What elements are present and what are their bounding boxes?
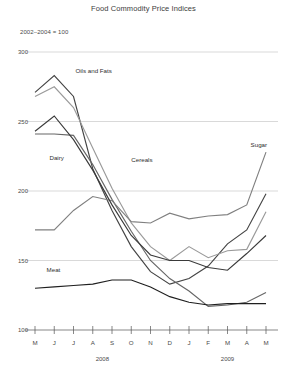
series-line-oils-and-fats <box>35 76 266 285</box>
x-axis-tick-label: M <box>263 339 268 346</box>
series-line-cereals <box>35 87 266 261</box>
x-axis-tick-label: O <box>129 339 134 346</box>
x-axis-labels-group: MJJASONDJFMAM <box>32 339 268 346</box>
series-label-dairy: Dairy <box>49 154 64 161</box>
gridlines-group <box>25 52 278 330</box>
x-axis-tick-label: A <box>91 339 96 346</box>
year-label: 2009 <box>221 356 235 362</box>
series-label-oils-and-fats: Oils and Fats <box>75 67 111 74</box>
x-axis-tick-label: M <box>225 339 230 346</box>
chart-container: Food Commodity Price Indices 2002–2004 =… <box>0 0 287 381</box>
x-axis-tick-label: J <box>187 339 190 346</box>
year-label: 2008 <box>96 356 110 362</box>
x-axis-tick-label: M <box>32 339 37 346</box>
series-labels-group: Oils and FatsCerealsDairySugarMeat <box>47 67 268 273</box>
series-label-sugar: Sugar <box>251 141 268 148</box>
y-axis-tick-label: 100 <box>18 327 29 333</box>
series-line-meat <box>35 280 266 305</box>
y-axis-labels-group: 100150200250300 <box>18 49 29 333</box>
x-axis-tick-label: N <box>148 339 152 346</box>
x-axis-tick-label: J <box>72 339 75 346</box>
series-label-cereals: Cereals <box>131 156 152 163</box>
series-label-meat: Meat <box>47 266 61 273</box>
x-axis-tick-label: S <box>110 339 114 346</box>
x-axis-tick-label: F <box>206 339 210 346</box>
y-axis-tick-label: 250 <box>18 119 29 125</box>
x-axis-tick-label: D <box>168 339 173 346</box>
x-axis-tick-label: J <box>53 339 56 346</box>
plot-area: 100150200250300 MJJASONDJFMAM 20082009 O… <box>0 0 287 381</box>
x-axis-tick-label: A <box>245 339 250 346</box>
y-axis-tick-label: 200 <box>18 188 29 194</box>
year-labels-group: 20082009 <box>96 356 235 362</box>
y-axis-tick-label: 300 <box>18 49 29 55</box>
y-axis-tick-label: 150 <box>18 258 29 264</box>
